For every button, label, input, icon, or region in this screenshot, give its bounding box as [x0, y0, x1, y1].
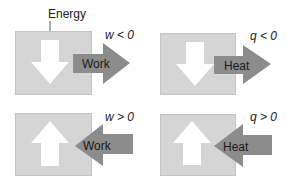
heat-in-arrow-icon — [0, 0, 293, 189]
condition-label: q > 0 — [250, 110, 277, 124]
heat-arrow-label: Heat — [223, 140, 248, 154]
